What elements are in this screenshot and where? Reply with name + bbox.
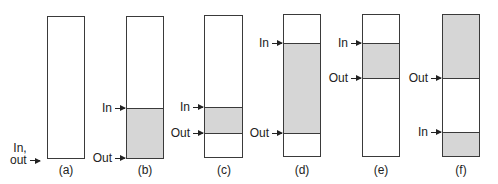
pointer-out-e: Out xyxy=(329,72,361,84)
out-line xyxy=(443,78,479,79)
filled-region xyxy=(363,44,399,79)
filled-region xyxy=(127,109,163,158)
filled-region-top xyxy=(443,15,479,79)
out-line xyxy=(205,133,242,134)
pointer-in-out-a: In, out xyxy=(10,142,40,166)
arrow-icon xyxy=(431,132,441,133)
pointer-out-f: Out xyxy=(409,72,441,84)
arrow-icon xyxy=(431,78,441,79)
arrow-icon xyxy=(193,107,203,108)
buffer-c xyxy=(204,15,243,158)
arrow-icon xyxy=(351,78,361,79)
buffer-d xyxy=(283,14,321,157)
pointer-in-c: In xyxy=(180,101,203,113)
out-line xyxy=(363,78,399,79)
arrow-icon xyxy=(272,43,282,44)
out-line xyxy=(284,133,320,134)
buffer-a xyxy=(47,16,85,159)
in-line xyxy=(284,43,320,44)
caption-c: (c) xyxy=(204,163,244,177)
filled-region xyxy=(205,108,242,134)
caption-e: (e) xyxy=(361,163,401,177)
arrow-icon xyxy=(272,133,282,134)
in-line xyxy=(363,43,399,44)
caption-a: (a) xyxy=(46,163,86,177)
caption-b: (b) xyxy=(125,163,165,177)
pointer-in-d: In xyxy=(259,37,282,49)
caption-d: (d) xyxy=(282,163,322,177)
pointer-out-d: Out xyxy=(250,127,282,139)
pointer-in-e: In xyxy=(338,37,361,49)
arrow-icon xyxy=(115,158,125,159)
pointer-out-b: Out xyxy=(93,152,125,164)
pointer-in-b: In xyxy=(102,102,125,114)
filled-region-bottom xyxy=(443,133,479,156)
pointer-in-f: In xyxy=(418,126,441,138)
in-line xyxy=(443,132,479,133)
buffer-f xyxy=(442,14,480,157)
in-line xyxy=(205,107,242,108)
buffer-b xyxy=(126,16,164,159)
arrow-icon xyxy=(193,133,203,134)
caption-f: (f) xyxy=(441,163,481,177)
buffer-e xyxy=(362,14,400,157)
arrow-icon xyxy=(351,43,361,44)
filled-region xyxy=(284,44,320,134)
pointer-label-out: out xyxy=(10,154,27,166)
arrow-icon xyxy=(30,160,40,161)
pointer-out-c: Out xyxy=(171,127,203,139)
in-line xyxy=(127,108,163,109)
arrow-icon xyxy=(115,108,125,109)
